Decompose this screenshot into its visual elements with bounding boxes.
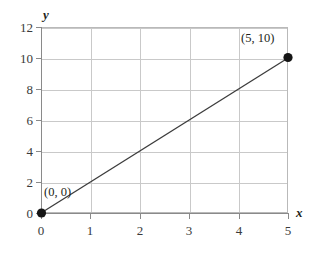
gridline-y-4 (42, 152, 287, 153)
y-tick-10 (36, 58, 41, 59)
y-ticklabel-0: 0 (5, 207, 33, 220)
y-ticklabel-12: 12 (5, 21, 33, 34)
gridline-y-2 (42, 183, 287, 184)
x-ticklabel-0: 0 (26, 224, 56, 237)
x-axis-label: x (296, 206, 303, 219)
y-ticklabel-2: 2 (5, 176, 33, 189)
y-ticklabel-6: 6 (5, 114, 33, 127)
y-axis-label: y (43, 8, 49, 21)
y-ticklabel-10-wrap: 10 (0, 52, 33, 65)
y-axis-line (41, 27, 42, 214)
line-chart-figure: 12 10 8 6 4 2 0 0 1 2 3 4 5 y x (0, 0) (… (0, 0, 320, 254)
plot-area (41, 27, 288, 213)
origin-point-label: (0, 0) (44, 186, 71, 199)
x-tick-2 (140, 214, 141, 219)
y-ticklabel-10: 10 (5, 52, 33, 65)
end-point-label: (5, 10) (241, 32, 274, 45)
y-ticklabel-2-wrap: 2 (0, 176, 33, 189)
x-tick-3 (189, 214, 190, 219)
y-ticklabel-0-wrap: 0 (0, 207, 33, 220)
x-ticklabel-2: 2 (125, 224, 155, 237)
y-ticklabel-4-wrap: 4 (0, 145, 33, 158)
gridline-x-1 (91, 28, 92, 212)
gridline-y-10 (42, 59, 287, 60)
gridline-y-6 (42, 121, 287, 122)
x-ticklabel-3: 3 (174, 224, 204, 237)
y-ticklabel-12-wrap: 12 (0, 21, 33, 34)
y-tick-12 (36, 27, 41, 28)
gridline-x-4 (239, 28, 240, 212)
y-ticklabel-8: 8 (5, 83, 33, 96)
y-tick-6 (36, 120, 41, 121)
x-tick-4 (239, 214, 240, 219)
gridline-y-12 (42, 28, 287, 29)
x-ticklabel-4: 4 (224, 224, 254, 237)
x-tick-0 (41, 214, 42, 219)
y-tick-4 (36, 151, 41, 152)
y-tick-2 (36, 182, 41, 183)
gridline-x-2 (140, 28, 141, 212)
y-ticklabel-8-wrap: 8 (0, 83, 33, 96)
y-tick-8 (36, 89, 41, 90)
x-axis-line (41, 213, 289, 214)
gridline-y-8 (42, 90, 287, 91)
x-tick-1 (90, 214, 91, 219)
y-ticklabel-6-wrap: 6 (0, 114, 33, 127)
x-ticklabel-5: 5 (273, 224, 303, 237)
x-ticklabel-1: 1 (75, 224, 105, 237)
x-tick-5 (288, 214, 289, 219)
y-ticklabel-4: 4 (5, 145, 33, 158)
gridline-x-3 (190, 28, 191, 212)
